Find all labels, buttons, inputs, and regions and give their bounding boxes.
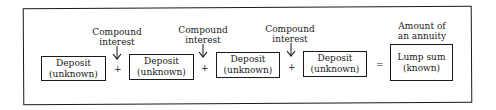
compound-interest-label-1: Compound interest — [87, 27, 147, 47]
compound-label-text: Compound — [173, 25, 233, 35]
plus-operator: + — [288, 62, 296, 72]
deposit-status: (unknown) — [224, 65, 273, 76]
deposit-status: (unknown) — [49, 69, 98, 80]
deposit-box-3: Deposit (unknown) — [216, 52, 280, 78]
arrow-down-icon — [112, 46, 122, 60]
deposit-box-2: Deposit (unknown) — [129, 54, 194, 80]
arrow-down-icon — [198, 44, 208, 58]
deposit-status: (unknown) — [311, 64, 360, 75]
annuity-caption-line1: Amount of — [390, 21, 454, 31]
lump-sum-label: Lump sum — [398, 52, 446, 63]
compound-label-text: Compound — [260, 24, 320, 34]
plus-operator: + — [114, 64, 122, 74]
lump-sum-box: Lump sum (known) — [390, 44, 453, 81]
equals-operator: = — [376, 60, 384, 70]
annuity-caption: Amount of an annuity — [390, 21, 454, 41]
plus-operator: + — [201, 63, 209, 73]
deposit-label: Deposit — [231, 54, 266, 65]
arrow-down-icon — [286, 43, 296, 57]
annuity-caption-line2: an annuity — [390, 31, 454, 41]
compound-interest-label-2: Compound interest — [173, 25, 233, 45]
deposit-label: Deposit — [318, 53, 353, 64]
compound-interest-label-3: Compound interest — [260, 24, 320, 44]
compound-label-text: Compound — [87, 27, 147, 37]
deposit-status: (unknown) — [137, 67, 186, 78]
deposit-box-4: Deposit (unknown) — [303, 51, 367, 77]
lump-sum-status: (known) — [403, 63, 440, 74]
deposit-label: Deposit — [56, 58, 91, 69]
deposit-label: Deposit — [144, 56, 179, 67]
deposit-box-1: Deposit (unknown) — [41, 56, 106, 81]
